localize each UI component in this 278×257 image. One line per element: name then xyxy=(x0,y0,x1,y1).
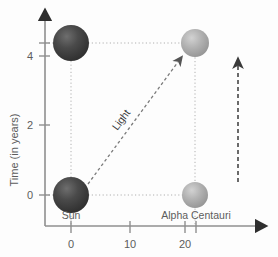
x-tick-label-10: 10 xyxy=(124,238,136,250)
sun-label: Sun xyxy=(62,209,81,221)
sun-sphere-bottom xyxy=(53,177,89,213)
y-tick-label-2: 2 xyxy=(27,119,33,131)
spacetime-diagram: 0 2 4 0 10 20 Time (in years) Light Sun … xyxy=(0,0,278,257)
y-tick-label-4: 4 xyxy=(27,50,33,62)
alpha-centauri-sphere-bottom xyxy=(182,182,208,208)
y-axis-title: Time (in years) xyxy=(8,114,20,187)
alpha-centauri-label: Alpha Centauri xyxy=(161,209,230,221)
diagram-canvas: 0 2 4 0 10 20 Time (in years) Light Sun … xyxy=(0,0,278,257)
x-tick-label-20: 20 xyxy=(179,238,191,250)
y-tick-label-0: 0 xyxy=(27,189,33,201)
alpha-centauri-sphere-top xyxy=(181,29,209,57)
light-ray-arrow xyxy=(88,62,178,184)
x-tick-label-0: 0 xyxy=(68,238,74,250)
sun-sphere-top xyxy=(53,25,89,61)
